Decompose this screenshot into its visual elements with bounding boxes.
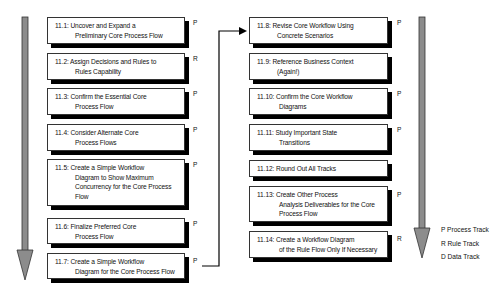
legend-process-track: P Process Track — [441, 226, 489, 233]
step-11-11-box: 11.11: Study Important State Transitions — [249, 124, 388, 151]
legend-data-track: D Data Track — [441, 253, 479, 260]
track-label: R — [193, 55, 198, 62]
step-11-2-box: 11.2: Assign Decisions and Rules to Rule… — [47, 53, 185, 80]
step-title-cont: Preliminary Core Process Flow — [55, 31, 180, 41]
step-title-cont: Flow — [55, 192, 180, 202]
step-11-10-box: 11.10: Confirm the Core Workflow Diagram… — [249, 88, 388, 115]
step-title: 11.2: Assign Decisions and Rules to — [55, 57, 180, 67]
step-11-3-box: 11.3: Confirm the Essential Core Process… — [47, 88, 185, 115]
connector-11-7-to-11-8 — [202, 27, 247, 266]
step-title: 11.1: Uncover and Expand a — [55, 21, 180, 31]
step-title: 11.13: Create Other Process — [257, 190, 383, 200]
step-title-cont: Diagrams — [257, 102, 383, 112]
step-title-cont: Rules Capability — [55, 67, 180, 77]
track-label: P — [397, 126, 401, 133]
step-title-cont: Process Flow — [55, 232, 180, 242]
step-11-5-box: 11.5: Create a Simple Workflow Diagram t… — [47, 159, 185, 206]
left-flow-arrow-icon — [17, 17, 33, 280]
step-11-14-box: 11.14: Create a Workflow Diagram of the … — [249, 231, 388, 258]
step-title: 11.3: Confirm the Essential Core — [55, 92, 180, 102]
step-title-cont: Transitions — [257, 138, 383, 148]
step-title: 11.14: Create a Workflow Diagram — [257, 235, 383, 245]
right-flow-arrow-icon — [414, 17, 430, 258]
step-title-cont: Process Flows — [55, 138, 180, 148]
step-11-4-box: 11.4: Consider Alternate Core Process Fl… — [47, 124, 185, 151]
step-11-9-box: 11.9: Reference Business Context (Again!… — [249, 53, 388, 80]
step-title: 11.11: Study Important State — [257, 128, 383, 138]
track-label: R — [397, 235, 402, 242]
track-label: P — [397, 19, 401, 26]
step-11-6-box: 11.6: Finalize Preferred Core Process Fl… — [47, 218, 185, 244]
step-title-cont: Concrete Scenarios — [257, 31, 383, 41]
step-11-8-box: 11.8: Revise Core Workflow Using Concret… — [249, 17, 388, 44]
step-title: 11.12: Round Out All Tracks — [257, 164, 383, 174]
step-title-cont: Process Flow — [55, 102, 180, 112]
track-label: P — [193, 90, 197, 97]
track-label: P — [193, 257, 197, 264]
step-title-cont: (Again!) — [257, 67, 383, 77]
track-label: P — [193, 161, 197, 168]
step-11-13-box: 11.13: Create Other Process Analysis Del… — [249, 186, 388, 222]
step-title-cont: of the Rule Flow Only If Necessary — [257, 245, 383, 255]
step-title-cont: Process Flow — [257, 209, 383, 219]
step-11-7-box: 11.7: Create a Simple Workflow Diagram f… — [47, 253, 185, 279]
legend-rule-track: R Rule Track — [441, 240, 479, 247]
step-title-cont: Diagram for the Core Process Flow — [55, 267, 180, 277]
track-label: P — [397, 191, 401, 198]
step-title-cont: Analysis Deliverables for the Core — [257, 200, 383, 210]
track-label: P — [193, 126, 197, 133]
step-title: 11.10: Confirm the Core Workflow — [257, 92, 383, 102]
step-title: 11.6: Finalize Preferred Core — [55, 222, 180, 232]
step-11-12-box: 11.12: Round Out All Tracks — [249, 160, 388, 177]
track-label: P — [193, 220, 197, 227]
track-label: P — [193, 19, 197, 26]
step-title: 11.7: Create a Simple Workflow — [55, 257, 180, 267]
step-title-cont: Concurrency for the Core Process — [55, 182, 180, 192]
step-title: 11.8: Revise Core Workflow Using — [257, 21, 383, 31]
step-11-1-box: 11.1: Uncover and Expand a Preliminary C… — [47, 17, 185, 44]
step-title: 11.4: Consider Alternate Core — [55, 128, 180, 138]
step-title: 11.5: Create a Simple Workflow — [55, 163, 180, 173]
step-title: 11.9: Reference Business Context — [257, 57, 383, 67]
track-label: P — [397, 90, 401, 97]
workflow-diagram: 11.1: Uncover and Expand a Preliminary C… — [0, 0, 498, 293]
step-title-cont: Diagram to Show Maximum — [55, 173, 180, 183]
